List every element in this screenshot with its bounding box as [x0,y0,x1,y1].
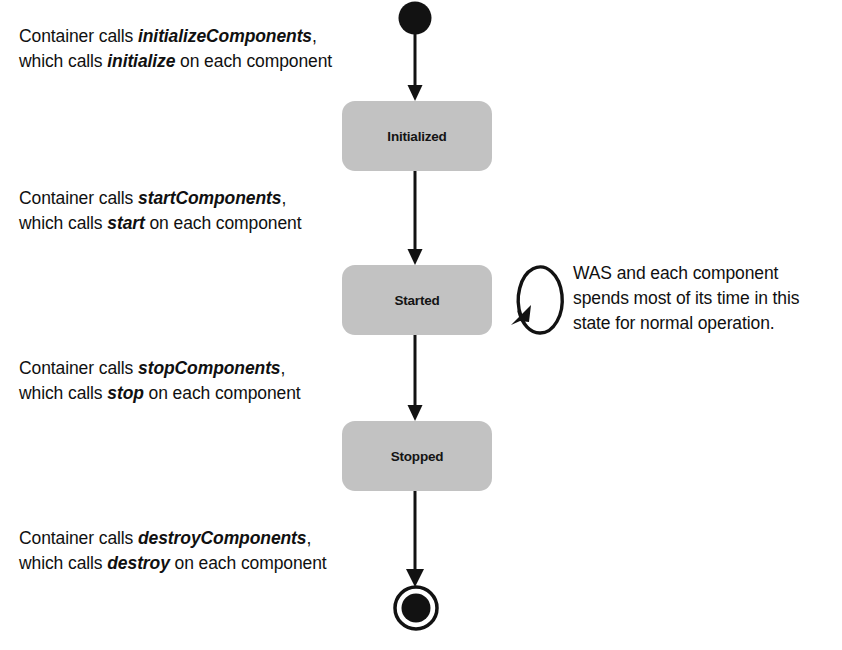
transition-label-stop-line1: Container calls stopComponents, [19,356,301,381]
method-name: destroy [107,553,170,573]
self-transition-note-line1: WAS and each component [573,261,799,286]
label-text: , [281,188,286,208]
arrowhead-stop [408,405,423,421]
transition-label-initialize: Container calls initializeComponents, wh… [19,24,332,74]
state-stopped[interactable]: Stopped [342,421,492,491]
transition-label-destroy: Container calls destroyComponents, which… [19,526,327,576]
state-initialized[interactable]: Initialized [342,101,492,171]
self-transition-note: WAS and each component spends most of it… [573,261,799,336]
method-name: initialize [107,51,175,71]
transition-label-destroy-line2: which calls destroy on each component [19,551,327,576]
label-text: which calls [19,51,107,71]
self-transition-loop [518,267,562,333]
label-text: which calls [19,213,107,233]
arrowhead-destroy [406,569,424,587]
method-name: initializeComponents [138,26,312,46]
method-name: startComponents [138,188,281,208]
method-name: stop [107,383,144,403]
transition-label-start: Container calls startComponents, which c… [19,186,302,236]
self-transition-note-line3: state for normal operation. [573,311,799,336]
label-text: Container calls [19,528,138,548]
label-text: on each component [145,213,302,233]
state-diagram-canvas: Container calls initializeComponents, wh… [0,0,842,650]
state-started[interactable]: Started [342,265,492,335]
initial-state-node [399,2,432,35]
state-started-label: Started [394,293,439,308]
arrowhead-self-transition [511,305,531,325]
label-text: on each component [144,383,301,403]
method-name: destroyComponents [138,528,306,548]
arrowhead-initialize [408,85,423,101]
transition-label-start-line1: Container calls startComponents, [19,186,302,211]
method-name: start [107,213,144,233]
state-initialized-label: Initialized [387,129,446,144]
transition-label-destroy-line1: Container calls destroyComponents, [19,526,327,551]
final-state-ring [395,587,437,629]
transition-label-initialize-line1: Container calls initializeComponents, [19,24,332,49]
arrowhead-start [408,249,423,265]
state-stopped-label: Stopped [391,449,444,464]
label-text: on each component [170,553,327,573]
label-text: , [281,358,286,378]
method-name: stopComponents [138,358,280,378]
transition-label-stop-line2: which calls stop on each component [19,381,301,406]
transition-label-start-line2: which calls start on each component [19,211,302,236]
final-state-core [402,594,431,623]
label-text: which calls [19,553,107,573]
label-text: on each component [175,51,332,71]
transition-label-initialize-line2: which calls initialize on each component [19,49,332,74]
label-text: Container calls [19,188,138,208]
transition-label-stop: Container calls stopComponents, which ca… [19,356,301,406]
label-text: which calls [19,383,107,403]
label-text: , [306,528,311,548]
label-text: Container calls [19,26,138,46]
label-text: Container calls [19,358,138,378]
label-text: , [312,26,317,46]
self-transition-note-line2: spends most of its time in this [573,286,799,311]
